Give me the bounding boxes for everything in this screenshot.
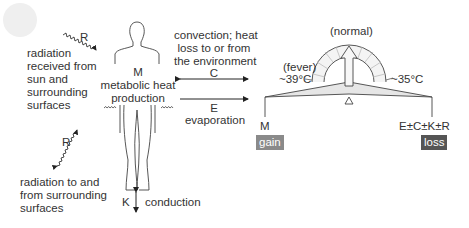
sun-icon <box>3 3 37 37</box>
radiation-exchange-label: radiation to and from surrounding surfac… <box>20 176 107 215</box>
metabolic-symbol: M <box>110 66 166 79</box>
conduction-symbol: K <box>122 196 130 209</box>
radiation-in-line: sun and <box>27 73 97 86</box>
radiation-in-line: received from <box>27 60 97 73</box>
fever-temp: ~39°C <box>279 73 311 86</box>
radiation-exchange-line: from surrounding <box>20 189 107 202</box>
radiation-in-line: surrounding <box>27 86 97 99</box>
radiation-exchange-symbol: R <box>62 136 70 149</box>
left-hand-heat-icon <box>104 107 116 109</box>
radiation-exchange-line: radiation to and <box>20 176 107 189</box>
evaporation-label: evaporation <box>180 114 250 127</box>
radiation-in-symbol: R <box>80 31 88 44</box>
radiation-in-label: radiation received from sun and surround… <box>27 47 97 112</box>
gain-badge: gain <box>256 135 284 150</box>
human-figure-icon <box>115 22 159 190</box>
loss-badge: loss <box>421 135 447 150</box>
convection-symbol: C <box>204 67 224 80</box>
radiation-in-line: radiation <box>27 47 97 60</box>
convection-label: convection; heat loss to or from the env… <box>174 29 254 68</box>
convection-line: loss to or from <box>174 42 254 55</box>
conduction-label: conduction <box>145 196 201 209</box>
low-temp: ~35°C <box>391 73 423 86</box>
gain-symbol: M <box>260 120 270 133</box>
radiation-in-line: surfaces <box>27 99 97 112</box>
right-hand-heat-icon <box>161 107 173 109</box>
radiation-exchange-line: surfaces <box>20 202 107 215</box>
normal-label: (normal) <box>330 25 373 38</box>
metabolic-label-line1: metabolic heat <box>96 79 180 92</box>
convection-line: convection; heat <box>174 29 254 42</box>
loss-symbol: E±C±K±R <box>399 120 450 133</box>
metabolic-label-line2: production <box>96 92 180 105</box>
